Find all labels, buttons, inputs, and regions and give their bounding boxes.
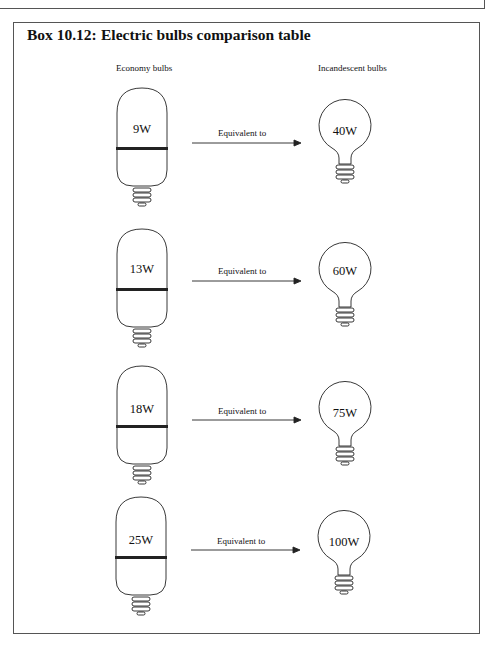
economy-bulb-icon: [115, 497, 167, 615]
arrow-icon: [192, 278, 301, 284]
equivalent-label: Equivalent to: [217, 536, 265, 546]
incandescent-bulb-icon: [318, 510, 370, 594]
incandescent-wattage: 60W: [320, 264, 370, 279]
bulb-pair-drawing: [0, 366, 495, 516]
incandescent-wattage: 100W: [319, 535, 369, 550]
comparison-row: 13W Equivalent to 60W: [0, 229, 495, 379]
economy-bulb-icon: [116, 229, 168, 347]
equivalent-label: Equivalent to: [218, 266, 266, 276]
economy-wattage: 25W: [116, 533, 166, 548]
previous-box-frame: [0, 0, 485, 9]
incandescent-bulb-icon: [319, 381, 371, 465]
column-header-incandescent: Incandescent bulbs: [318, 63, 387, 73]
equivalent-label: Equivalent to: [218, 406, 266, 416]
economy-wattage: 9W: [117, 122, 167, 137]
bulb-pair-drawing: [0, 229, 495, 379]
comparison-row: 9W Equivalent to 40W: [0, 88, 495, 238]
economy-bulb-icon: [116, 88, 168, 206]
incandescent-bulb-icon: [319, 99, 371, 183]
box-title: Box 10.12:Electric bulbs comparison tabl…: [27, 26, 311, 44]
column-header-economy: Economy bulbs: [116, 63, 172, 73]
equivalent-label: Equivalent to: [218, 128, 266, 138]
comparison-row: 18W Equivalent to 75W: [0, 366, 495, 516]
bulb-pair-drawing: [0, 497, 495, 647]
incandescent-wattage: 40W: [320, 124, 370, 139]
arrow-icon: [191, 547, 300, 553]
box-title-text: Electric bulbs comparison table: [101, 26, 311, 43]
economy-bulb-icon: [116, 366, 168, 484]
arrow-icon: [192, 417, 301, 423]
economy-wattage: 13W: [117, 262, 167, 277]
arrow-icon: [192, 140, 301, 146]
economy-wattage: 18W: [117, 402, 167, 417]
bulb-pair-drawing: [0, 88, 495, 238]
incandescent-wattage: 75W: [320, 406, 370, 421]
comparison-row: 25W Equivalent to 100W: [0, 497, 495, 647]
incandescent-bulb-icon: [319, 242, 371, 326]
box-number: Box 10.12:: [27, 26, 101, 44]
